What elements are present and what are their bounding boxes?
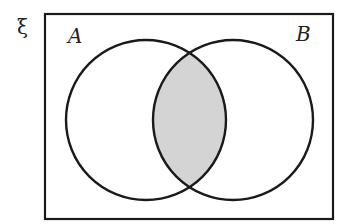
universal-set-label: ξ <box>17 15 28 39</box>
venn-diagram: ξ A B <box>0 0 345 224</box>
set-b-label: B <box>295 22 311 46</box>
set-a-label: A <box>66 24 82 48</box>
